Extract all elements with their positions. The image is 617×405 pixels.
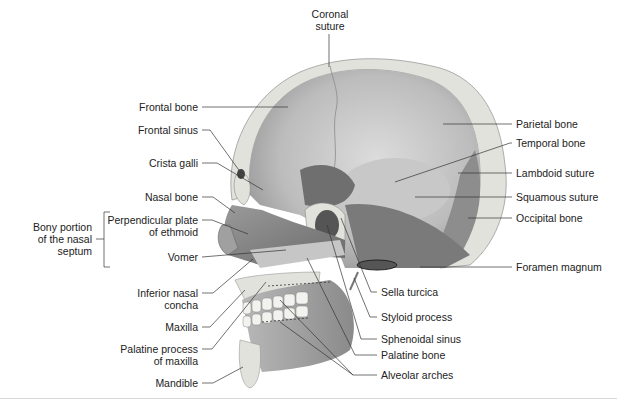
label-sella-turcica: Sella turcica <box>381 286 438 298</box>
label-crista-galli: Crista galli <box>90 157 198 169</box>
label-alveolar-arches: Alveolar arches <box>381 369 453 381</box>
label-parietal-bone: Parietal bone <box>516 118 578 130</box>
label-line: Bony portion <box>10 221 92 233</box>
skull-sagittal-diagram: Coronal suture Frontal bone Frontal sinu… <box>0 0 617 405</box>
label-squamous-suture: Squamous suture <box>516 191 598 203</box>
label-vomer: Vomer <box>90 251 198 263</box>
label-inferior-nasal-concha: Inferior nasal concha <box>90 287 198 311</box>
label-bony-portion-nasal-septum: Bony portion of the nasal septum <box>10 221 92 257</box>
label-mandible: Mandible <box>90 377 198 389</box>
label-frontal-bone: Frontal bone <box>90 101 198 113</box>
divider <box>0 398 617 399</box>
label-nasal-bone: Nasal bone <box>90 191 198 203</box>
label-line: of the nasal <box>10 233 92 245</box>
label-line: Inferior nasal <box>90 287 198 299</box>
label-foramen-magnum: Foramen magnum <box>516 261 602 273</box>
label-coronal-suture: Coronal suture <box>305 8 355 32</box>
label-palatine-process: Palatine process of maxilla <box>90 343 198 367</box>
label-line: suture <box>305 20 355 32</box>
label-line: concha <box>90 299 198 311</box>
label-line: of maxilla <box>90 355 198 367</box>
label-sphenoidal-sinus: Sphenoidal sinus <box>381 333 461 345</box>
label-line: septum <box>10 245 92 257</box>
label-occipital-bone: Occipital bone <box>516 212 583 224</box>
label-palatine-bone: Palatine bone <box>381 349 445 361</box>
label-line: Perpendicular plate <box>90 214 198 226</box>
label-perpendicular-plate: Perpendicular plate of ethmoid <box>90 214 198 238</box>
label-maxilla: Maxilla <box>90 321 198 333</box>
label-line: Coronal <box>305 8 355 20</box>
label-temporal-bone: Temporal bone <box>516 137 585 149</box>
label-lambdoid-suture: Lambdoid suture <box>516 167 594 179</box>
label-frontal-sinus: Frontal sinus <box>90 124 198 136</box>
label-line: of ethmoid <box>90 226 198 238</box>
label-styloid-process: Styloid process <box>381 311 452 323</box>
label-line: Palatine process <box>90 343 198 355</box>
